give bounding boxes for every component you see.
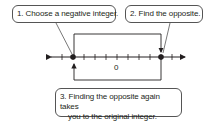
negative-integer-point — [70, 54, 76, 60]
callout-step-3-line2: you to the original integer. — [60, 112, 177, 121]
callout-step-2-text: 2. Find the opposite. — [130, 9, 200, 18]
opposite-arrow-top — [74, 34, 161, 55]
callout1-leader — [56, 23, 72, 54]
zero-label: 0 — [114, 63, 118, 72]
callout-step-3: 3. Finding the opposite again takes you … — [55, 88, 182, 117]
opposite-integer-point — [158, 54, 164, 60]
callout2-leader — [163, 23, 170, 53]
callout-step-3-line1: 3. Finding the opposite again takes — [60, 92, 160, 111]
callout-step-1: 1. Choose a negative integer. — [12, 5, 116, 23]
callout-step-2: 2. Find the opposite. — [125, 5, 203, 23]
callout-step-1-text: 1. Choose a negative integer. — [17, 9, 118, 18]
